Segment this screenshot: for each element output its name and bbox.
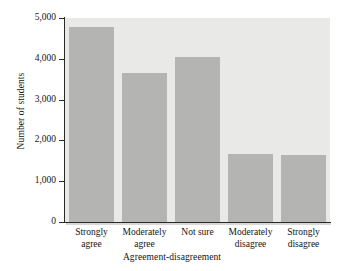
x-axis-category-label-line: disagree (271, 239, 336, 251)
y-axis-tick (59, 181, 65, 182)
y-axis-tick (59, 100, 65, 101)
bar (69, 27, 114, 222)
y-axis-tick-label: 2,000 (8, 135, 56, 145)
bar-chart: Number of students 01,0002,0003,0004,000… (0, 0, 344, 271)
y-axis-tick-label: 1,000 (8, 176, 56, 186)
x-axis-title: Agreement-disagreement (0, 252, 344, 262)
y-axis-tick-label: 4,000 (8, 54, 56, 64)
y-axis-tick (59, 59, 65, 60)
y-axis-line (64, 17, 65, 223)
y-axis-tick (59, 18, 65, 19)
x-axis-line (64, 222, 331, 223)
x-axis-shadow (66, 223, 331, 225)
bar (228, 154, 273, 222)
bar (281, 155, 326, 222)
x-axis-category-label-line: Strongly (271, 227, 336, 239)
bar (122, 73, 167, 222)
y-axis-title: Number of students (16, 51, 26, 171)
y-axis-tick-label: 3,000 (8, 95, 56, 105)
y-axis-tick (59, 222, 65, 223)
y-axis-tick-label: 5,000 (8, 13, 56, 23)
x-axis-category-label: Stronglydisagree (271, 227, 336, 250)
bar (175, 57, 220, 222)
x-axis-category-label-line: agree (112, 239, 177, 251)
y-axis-tick (59, 140, 65, 141)
y-axis-tick-label: 0 (8, 217, 56, 227)
